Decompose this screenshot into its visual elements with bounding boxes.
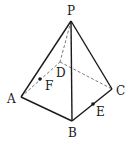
label-A: A	[6, 92, 16, 106]
diagram-canvas: P A B C D E F	[0, 0, 130, 142]
point-F-dot	[38, 77, 42, 81]
label-F: F	[45, 79, 53, 93]
edge-AB	[21, 97, 72, 121]
pyramid-diagram: P A B C D E F	[0, 0, 130, 142]
label-E: E	[96, 105, 105, 119]
point-E-dot	[91, 102, 95, 106]
label-B: B	[68, 126, 77, 140]
label-D: D	[56, 66, 66, 80]
label-C: C	[116, 84, 125, 98]
label-P: P	[67, 4, 75, 18]
edge-PB	[71, 21, 72, 121]
edge-PD	[60, 21, 71, 62]
